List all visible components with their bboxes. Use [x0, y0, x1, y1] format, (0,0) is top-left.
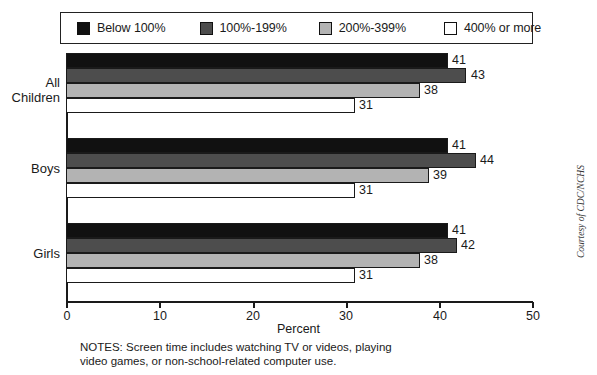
x-tick-label-10: 10: [153, 309, 167, 323]
legend-label-400-more: 400% or more: [464, 21, 541, 35]
bar-all-children-400-more: [66, 98, 355, 113]
bar-value-boys-100-199: 44: [480, 153, 494, 168]
category-label-girls: Girls: [0, 246, 60, 261]
x-tick-label-40: 40: [433, 309, 447, 323]
x-tick-mark-0: [66, 302, 68, 308]
chart-notes: NOTES: Screen time includes watching TV …: [80, 341, 392, 368]
category-label-all-children-line1: All: [0, 75, 60, 90]
x-tick-mark-10: [159, 302, 161, 308]
legend-item-100-199: 100%-199%: [200, 21, 287, 35]
legend-label-200-399: 200%-399%: [339, 21, 406, 35]
bar-value-girls-200-399: 38: [424, 253, 438, 268]
bar-girls-below-100: [66, 223, 448, 238]
chart-credit: Courtesy of CDC/NCHS: [576, 165, 586, 258]
bar-value-boys-400-more: 31: [359, 183, 373, 198]
bar-all-children-100-199: [66, 68, 466, 83]
legend-item-200-399: 200%-399%: [319, 21, 406, 35]
legend-label-100-199: 100%-199%: [220, 21, 287, 35]
bar-boys-200-399: [66, 168, 429, 183]
bar-value-girls-below-100: 41: [452, 223, 466, 238]
x-tick-label-0: 0: [64, 309, 71, 323]
bar-boys-400-more: [66, 183, 355, 198]
chart-plot-area: 41 43 38 31 41 44 39 31: [66, 53, 532, 302]
bar-value-all-children-400-more: 31: [359, 98, 373, 113]
category-axis-labels: All Children Boys Girls: [0, 53, 60, 302]
legend-label-below-100: Below 100%: [97, 21, 166, 35]
bar-girls-400-more: [66, 268, 355, 283]
x-axis-title: Percent: [0, 322, 597, 336]
bar-value-boys-below-100: 41: [452, 138, 466, 153]
x-tick-mark-50: [532, 302, 534, 308]
legend-swatch-200-399-icon: [319, 22, 332, 35]
bar-all-children-below-100: [66, 53, 448, 68]
legend-swatch-below-100-icon: [77, 22, 90, 35]
bar-value-all-children-100-199: 43: [471, 68, 485, 83]
x-tick-label-20: 20: [246, 309, 260, 323]
category-label-all-children-line2: Children: [0, 90, 60, 105]
chart-legend: Below 100% 100%-199% 200%-399% 400% or m…: [60, 12, 533, 44]
category-label-boys: Boys: [0, 161, 60, 176]
bar-value-girls-100-199: 42: [461, 238, 475, 253]
bar-boys-100-199: [66, 153, 476, 168]
bar-value-all-children-200-399: 38: [424, 83, 438, 98]
legend-item-400-more: 400% or more: [444, 21, 541, 35]
legend-swatch-400-more-icon: [444, 22, 457, 35]
legend-swatch-100-199-icon: [200, 22, 213, 35]
x-tick-mark-30: [346, 302, 348, 308]
category-label-all-children: All Children: [0, 75, 60, 105]
bar-value-boys-200-399: 39: [433, 168, 447, 183]
bar-value-girls-400-more: 31: [359, 268, 373, 283]
bar-girls-100-199: [66, 238, 457, 253]
x-tick-mark-20: [253, 302, 255, 308]
bar-all-children-200-399: [66, 83, 420, 98]
x-tick-label-30: 30: [339, 309, 353, 323]
bar-value-all-children-below-100: 41: [452, 53, 466, 68]
bar-boys-below-100: [66, 138, 448, 153]
legend-item-below-100: Below 100%: [77, 21, 166, 35]
x-tick-label-50: 50: [526, 309, 540, 323]
bar-girls-200-399: [66, 253, 420, 268]
x-tick-mark-40: [439, 302, 441, 308]
